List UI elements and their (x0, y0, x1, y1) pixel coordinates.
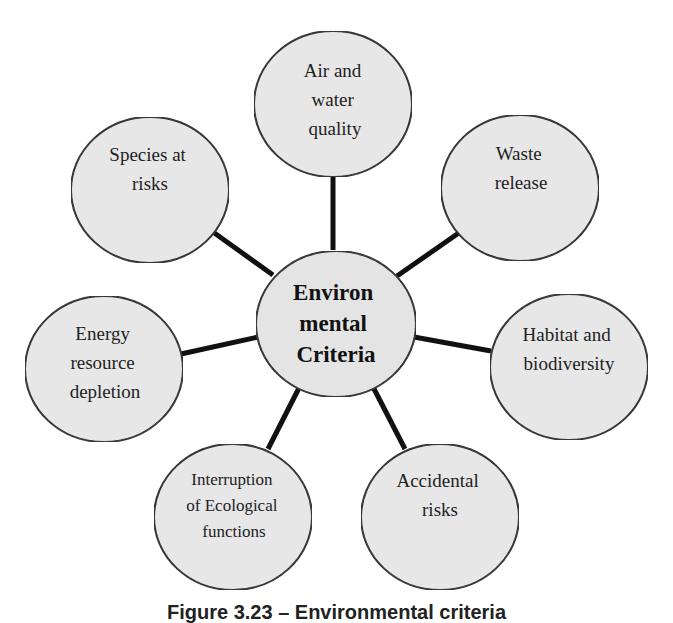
center-line-1: Environ (293, 280, 373, 305)
node-waste-line-1: Waste (496, 143, 542, 164)
node-air-water-line-2: water (312, 89, 355, 110)
node-ecological-line-2: of Ecological (186, 496, 277, 515)
node-energy-line-1: Energy (75, 323, 130, 344)
node-habitat-line-1: Habitat and (523, 324, 612, 345)
node-waste-line-2: release (495, 172, 548, 193)
node-species-line-1: Species at (109, 144, 186, 165)
svg-text:Energy resource de: Energy resource depletion (70, 323, 141, 402)
node-ecological-line-1: Interruption (191, 470, 273, 489)
connector-species (213, 232, 273, 275)
node-species-line-2: risks (132, 173, 168, 194)
figure-caption: Figure 3.23 – Environmental criteria (0, 602, 673, 622)
node-ecological-line-3: functions (202, 522, 265, 541)
node-ecological: Interruption of Ecological functions (154, 444, 312, 590)
node-accidental-line-2: risks (422, 499, 458, 520)
node-air-water-line-3: quality (309, 118, 362, 139)
center-line-3: Criteria (296, 342, 376, 367)
svg-text:Air and water qual: Air and water quality (304, 60, 366, 139)
node-waste: Waste release (441, 115, 599, 261)
svg-text:Environ mental Cri: Environ mental Criteria (293, 280, 379, 367)
node-energy-line-3: depletion (70, 381, 141, 402)
node-habitat-line-2: biodiversity (524, 353, 615, 374)
node-accidental: Accidental risks (361, 444, 519, 590)
node-habitat: Habitat and biodiversity (490, 294, 648, 440)
connector-accidental (371, 383, 405, 449)
connector-waste (397, 230, 463, 276)
node-species: Species at risks (71, 117, 229, 263)
connector-energy (181, 337, 258, 354)
connector-habitat (414, 337, 491, 351)
center-hub: Environ mental Criteria (256, 251, 416, 397)
center-line-2: mental (299, 311, 367, 336)
node-energy: Energy resource depletion (25, 296, 183, 442)
node-energy-line-2: resource (70, 352, 134, 373)
node-air-water-line-1: Air and (304, 60, 362, 81)
connector-ecological (268, 386, 300, 449)
node-air-water: Air and water quality (254, 31, 412, 177)
node-accidental-line-1: Accidental (396, 470, 478, 491)
